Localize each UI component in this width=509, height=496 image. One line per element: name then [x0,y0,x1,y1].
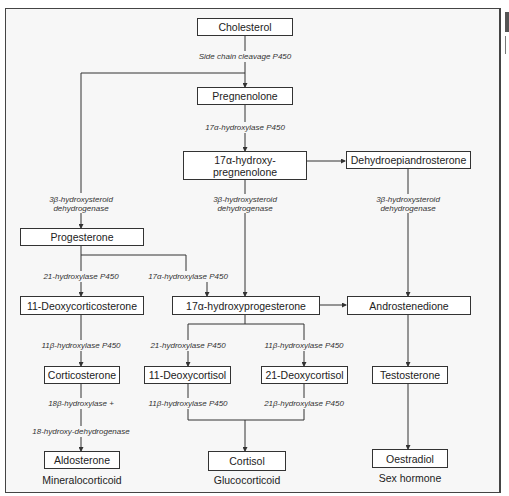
enzyme-3b-hsd-left: 3β-hydroxysteroid dehydrogenase [48,195,114,213]
node-cortisol: Cortisol [208,451,286,471]
node-dehydroepiandrosterone: Dehydroepiandrosterone [346,151,471,169]
node-cholesterol: Cholesterol [197,18,293,36]
node-17a-hydroxyprogesterone: 17α-hydroxyprogesterone [172,296,320,315]
node-21-deoxycortisol: 21-Deoxycortisol [261,366,348,384]
node-testosterone: Testosterone [372,366,448,384]
node-androstenedione: Androstenedione [347,296,471,315]
enzyme-11b-hydroxylase-left: 11β-hydroxylase P450 [40,341,121,350]
enzyme-11b-hydroxylase-bottom: 11β-hydroxylase P450 [147,399,228,408]
enzyme-21-hydroxylase-middle: 21-hydroxylase P450 [149,341,226,350]
enzyme-3b-hsd-right: 3β-hydroxysteroid dehydrogenase [375,195,441,213]
node-pregnenolone: Pregnenolone [197,87,293,105]
node-aldosterone: Aldosterone [44,451,120,469]
node-corticosterone: Corticosterone [44,366,120,384]
enzyme-17a-hydroxylase-middle: 17α-hydroxylase P450 [147,272,229,281]
category-sex-hormone: Sex hormone [379,472,441,484]
node-17a-hydroxypregnenolone: 17α-hydroxy- pregnenolone [183,151,307,180]
enzyme-11b-hydroxylase-right: 11β-hydroxylase P450 [263,341,344,350]
pathway-connectors [0,0,509,496]
enzyme-21-hydroxylase-left: 21-hydroxylase P450 [42,272,119,281]
node-11-deoxycorticosterone: 11-Deoxycorticosterone [20,296,144,315]
enzyme-17a-hydroxylase-top: 17α-hydroxylase P450 [204,123,286,132]
node-progesterone: Progesterone [20,228,144,246]
enzyme-18b-hydroxylase: 18β-hydroxylase + [47,399,115,408]
category-glucocorticoid: Glucocorticoid [214,474,281,486]
enzyme-side-chain-cleavage: Side chain cleavage P450 [198,52,293,61]
node-oestradiol: Oestradiol [372,449,448,468]
category-mineralocorticoid: Mineralocorticoid [42,474,121,486]
node-11-deoxycortisol: 11-Deoxycortisol [144,366,231,384]
enzyme-18-hydroxy-dehydrogenase: 18-hydroxy-dehydrogenase [31,427,130,436]
enzyme-3b-hsd-middle: 3β-hydroxysteroid dehydrogenase [212,195,278,213]
enzyme-21b-hydroxylase-bottom: 21β-hydroxylase P450 [263,399,345,408]
